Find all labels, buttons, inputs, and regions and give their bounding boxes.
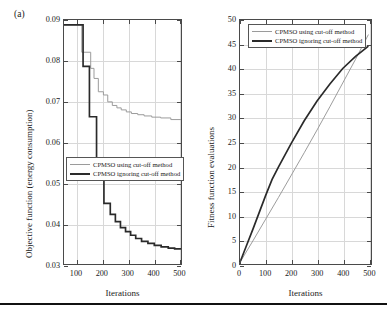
y-axis-tick xyxy=(64,266,68,267)
y-tick-label: 10 xyxy=(228,211,236,220)
y-tick-label: 0.05 xyxy=(46,179,60,188)
y-axis-title-right: Fitness function evaluations xyxy=(206,127,216,228)
x-axis-tick xyxy=(155,260,156,264)
figure-bottom-rule xyxy=(0,303,387,305)
y-axis-tick xyxy=(177,61,181,62)
y-axis-tick xyxy=(177,102,181,103)
x-tick-label: 300 xyxy=(311,269,323,278)
y-axis-tick xyxy=(240,241,244,242)
x-axis-tick xyxy=(292,260,293,264)
x-axis-tick xyxy=(155,20,156,24)
y-axis-tick xyxy=(240,45,244,46)
y-tick-label: 5 xyxy=(232,236,236,245)
y-axis-tick xyxy=(367,94,371,95)
y-tick-label: 50 xyxy=(228,15,236,24)
y-axis-tick xyxy=(64,184,68,185)
y-tick-label: 15 xyxy=(228,187,236,196)
y-axis-tick xyxy=(177,143,181,144)
y-axis-tick xyxy=(367,192,371,193)
y-tick-label: 45 xyxy=(228,39,236,48)
x-tick-label: 200 xyxy=(285,269,297,278)
x-axis-tick xyxy=(180,260,181,264)
legend-item-ignoring-cutoff: CPMSO ignoring cut-off method xyxy=(251,36,362,45)
legend-item-ignoring-cutoff: CPMSO ignoring cut-off method xyxy=(69,169,180,178)
y-axis-title-left: Objective function (energy consumption) xyxy=(24,109,34,258)
y-tick-label: 30 xyxy=(228,113,236,122)
y-axis-tick xyxy=(64,61,68,62)
x-axis-tick xyxy=(103,20,104,24)
y-tick-label: 35 xyxy=(228,88,236,97)
y-axis-tick xyxy=(367,143,371,144)
panel-label-a: (a) xyxy=(14,9,25,19)
y-axis-tick xyxy=(64,225,68,226)
legend-line-swatch-black xyxy=(70,173,90,175)
legend-line-swatch-black xyxy=(252,40,272,42)
legend-label-ignoring-cutoff: CPMSO ignoring cut-off method xyxy=(93,170,180,177)
y-tick-label: 25 xyxy=(228,138,236,147)
y-axis-tick xyxy=(367,20,371,21)
y-axis-tick xyxy=(367,217,371,218)
y-tick-label: 0.04 xyxy=(46,220,60,229)
x-axis-tick xyxy=(266,260,267,264)
x-axis-tick xyxy=(77,20,78,24)
y-axis-tick xyxy=(240,118,244,119)
x-tick-label: 500 xyxy=(173,269,185,278)
x-axis-tick xyxy=(77,260,78,264)
x-tick-label: 300 xyxy=(122,269,134,278)
y-axis-tick xyxy=(240,69,244,70)
y-axis-tick xyxy=(177,266,181,267)
y-axis-tick xyxy=(367,168,371,169)
y-axis-tick xyxy=(177,20,181,21)
x-tick-label: 400 xyxy=(337,269,349,278)
x-axis-tick xyxy=(318,260,319,264)
y-tick-label: 40 xyxy=(228,64,236,73)
legend-label-using-cutoff: CPMSO using cut-off method xyxy=(275,28,354,35)
y-axis-tick xyxy=(177,184,181,185)
x-tick-label: 500 xyxy=(363,269,375,278)
legend-item-using-cutoff: CPMSO using cut-off method xyxy=(69,160,180,169)
y-axis-tick xyxy=(240,143,244,144)
legend-line-swatch-gray xyxy=(70,164,90,165)
legend-label-ignoring-cutoff: CPMSO ignoring cut-off method xyxy=(275,37,362,44)
y-axis-tick xyxy=(64,102,68,103)
y-tick-label: 0.08 xyxy=(46,56,60,65)
y-axis-tick xyxy=(64,143,68,144)
chart-panel-left: (a) Objective function (energy consumpti… xyxy=(0,0,193,300)
y-axis-tick xyxy=(240,168,244,169)
y-axis-tick xyxy=(367,118,371,119)
y-axis-tick xyxy=(240,192,244,193)
y-tick-label: 0.03 xyxy=(46,261,60,270)
y-axis-tick xyxy=(367,45,371,46)
x-tick-label: 200 xyxy=(96,269,108,278)
figure-container: (a) Objective function (energy consumpti… xyxy=(0,0,387,314)
x-axis-title-right: Iterations xyxy=(239,288,372,298)
legend-item-using-cutoff: CPMSO using cut-off method xyxy=(251,27,362,36)
y-axis-tick xyxy=(367,69,371,70)
series-lines-left xyxy=(64,20,181,262)
series-line-ignoring-cutoff xyxy=(64,25,181,249)
chart-panel-right: Fitness function evaluations 05101520253… xyxy=(193,0,387,300)
legend-right: CPMSO using cut-off method CPMSO ignorin… xyxy=(248,24,366,48)
y-axis-tick xyxy=(367,266,371,267)
x-axis-tick xyxy=(103,260,104,264)
x-tick-label: 0 xyxy=(237,269,241,278)
y-tick-label: 0 xyxy=(232,261,236,270)
x-axis-tick xyxy=(240,260,241,264)
y-tick-label: 20 xyxy=(228,162,236,171)
y-axis-tick xyxy=(240,266,244,267)
plot-area-left xyxy=(63,19,182,265)
x-axis-tick xyxy=(344,260,345,264)
x-tick-label: 400 xyxy=(147,269,159,278)
series-line-using-cutoff xyxy=(240,35,368,263)
x-tick-label: 100 xyxy=(70,269,82,278)
y-tick-label: 0.06 xyxy=(46,138,60,147)
series-line-using-cutoff xyxy=(64,25,181,120)
x-axis-title-left: Iterations xyxy=(63,288,182,298)
y-axis-tick xyxy=(367,241,371,242)
y-axis-tick xyxy=(240,94,244,95)
x-axis-tick xyxy=(370,260,371,264)
x-tick-label: 100 xyxy=(259,269,271,278)
y-axis-tick xyxy=(64,20,68,21)
legend-label-using-cutoff: CPMSO using cut-off method xyxy=(93,161,172,168)
y-axis-tick xyxy=(177,225,181,226)
